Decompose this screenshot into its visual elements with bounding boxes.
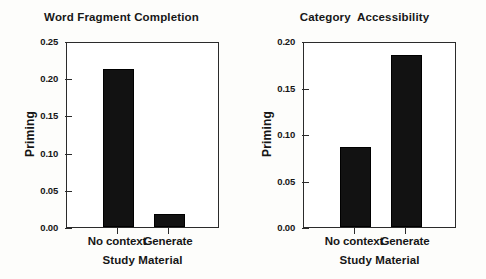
x-axis-label: Study Material: [73, 254, 213, 266]
y-tick-mark: [65, 79, 72, 80]
figure: Word Fragment Completion Priming 0.000.0…: [0, 0, 486, 279]
bar: [391, 55, 422, 227]
y-tick-mark: [302, 135, 309, 136]
y-tick-mark: [302, 89, 309, 90]
plot-area: [66, 42, 219, 228]
y-tick-mark: [302, 182, 309, 183]
y-tick-mark: [65, 42, 72, 43]
plot-inner: [304, 43, 455, 227]
y-tick-mark: [302, 42, 309, 43]
x-tick-mark: [405, 228, 406, 234]
y-tick-label: 0.05: [24, 185, 58, 196]
y-tick-label: 0.00: [24, 222, 58, 233]
y-tick-label: 0.05: [261, 176, 295, 187]
bar: [103, 69, 134, 227]
y-tick-mark: [65, 191, 72, 192]
panel-title: Word Fragment Completion: [0, 11, 243, 23]
y-tick-label: 0.25: [24, 36, 58, 47]
y-tick-label: 0.00: [261, 222, 295, 233]
bar: [340, 147, 371, 227]
x-axis-label: Study Material: [310, 254, 450, 266]
y-tick-mark: [65, 116, 72, 117]
x-tick-mark: [168, 228, 169, 234]
y-tick-label: 0.20: [24, 73, 58, 84]
y-tick-mark: [65, 154, 72, 155]
panel-title: Category Accessibility: [243, 11, 486, 23]
bar: [154, 214, 185, 227]
y-tick-label: 0.20: [261, 36, 295, 47]
x-tick-label: Generate: [123, 235, 213, 247]
x-tick-mark: [117, 228, 118, 234]
y-tick-mark: [302, 228, 309, 229]
y-tick-label: 0.15: [261, 83, 295, 94]
y-tick-label: 0.15: [24, 110, 58, 121]
plot-inner: [67, 43, 218, 227]
x-tick-mark: [354, 228, 355, 234]
chart-panel-word-fragment-completion: Word Fragment Completion Priming 0.000.0…: [0, 0, 243, 279]
y-tick-mark: [65, 228, 72, 229]
x-tick-label: Generate: [360, 235, 450, 247]
y-tick-label: 0.10: [24, 148, 58, 159]
y-tick-label: 0.10: [261, 129, 295, 140]
chart-panel-category-accessibility: Category Accessibility Priming 0.000.050…: [243, 0, 486, 279]
plot-area: [303, 42, 456, 228]
